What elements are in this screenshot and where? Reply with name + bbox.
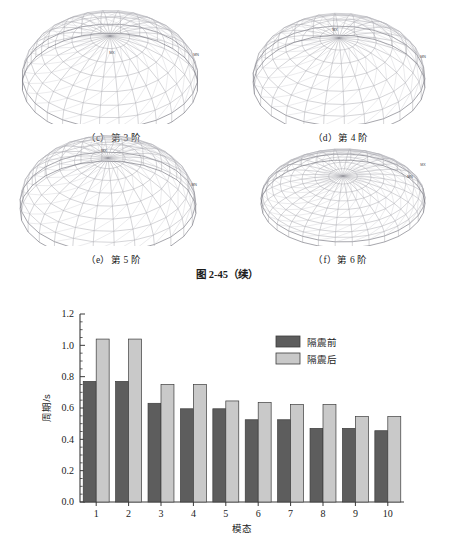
mesh-segment (113, 205, 127, 219)
mesh-segment (304, 17, 316, 19)
mesh-segment (114, 240, 134, 246)
mesh-segment (366, 151, 383, 156)
mesh-segment (343, 176, 410, 224)
y-tick-label: 0.8 (62, 371, 75, 382)
mesh-segment (39, 232, 55, 233)
mesh-segment (356, 173, 370, 174)
mesh-segment (381, 27, 400, 36)
mesh-segment (292, 220, 308, 221)
mesh-segment (338, 162, 339, 169)
mesh-segment (128, 59, 130, 75)
x-tick-label: 1 (94, 508, 99, 519)
mesh-segment (133, 213, 147, 229)
mesh-segment (385, 226, 398, 236)
mesh-segment (146, 68, 148, 86)
mesh-segment (263, 174, 343, 189)
mesh-segment (93, 242, 114, 246)
mesh-segment (54, 85, 73, 91)
mesh-segment (154, 228, 169, 245)
mesh-segment (45, 211, 64, 214)
mesh-segment (358, 40, 375, 49)
mesh-segment (83, 193, 100, 203)
mesh-segment (273, 95, 291, 98)
mesh-segment (376, 43, 390, 55)
x-tick-label: 10 (383, 508, 393, 519)
mesh-segment (34, 204, 51, 205)
mesh-segment (308, 216, 324, 220)
mesh-segment (287, 101, 307, 106)
mesh-segment (271, 106, 287, 107)
mesh-segment (172, 94, 183, 113)
mesh-segment (275, 41, 286, 45)
legend-label: 隔震前 (307, 337, 337, 348)
mesh-segment (261, 97, 273, 98)
mesh-segment (116, 61, 123, 77)
mesh-segment (141, 185, 143, 201)
mesh-segment (151, 207, 160, 225)
mesh-segment (315, 162, 371, 192)
x-tick-label: 9 (353, 508, 358, 519)
mesh-segment (369, 232, 384, 240)
mesh-segment (316, 49, 331, 59)
bar-before-isolation (278, 420, 291, 502)
mesh-segment (360, 198, 364, 208)
mesh-segment (39, 158, 108, 233)
mesh-segment (280, 184, 291, 187)
mesh-segment (108, 158, 154, 245)
mesh-segment (329, 63, 341, 77)
mesh-segment (189, 187, 190, 207)
bar-after-isolation (226, 401, 239, 502)
mesh-segment (375, 48, 385, 62)
mesh-segment (159, 23, 177, 34)
mesh-segment (76, 156, 91, 159)
mesh-segment (80, 117, 99, 124)
mesh-segment (87, 77, 104, 89)
mesh-segment (64, 103, 83, 110)
mesh-segment (155, 173, 162, 188)
mesh-segment (120, 166, 125, 178)
mesh-segment (107, 142, 114, 149)
y-tick-label: 0.0 (62, 496, 75, 507)
mesh-segment (50, 31, 64, 32)
mesh-segment (411, 73, 413, 93)
mesh-segment (96, 206, 113, 218)
mesh-segment (112, 192, 123, 206)
mesh-segment (110, 36, 156, 120)
mesh-segment (128, 41, 142, 52)
mesh-segment (291, 157, 302, 160)
mesh-segment (94, 219, 113, 231)
mesh-max-marker: MX (332, 28, 338, 32)
mesh-segment (305, 223, 322, 226)
bar-before-isolation (310, 428, 323, 502)
mesh-segment (155, 92, 166, 110)
mesh-segment (100, 105, 119, 117)
mesh-segment (353, 47, 359, 61)
mesh-segment (335, 237, 352, 242)
mesh-segment (278, 66, 297, 69)
mesh-segment (304, 116, 324, 122)
mesh-segment (104, 18, 106, 27)
mesh-segment (47, 110, 64, 113)
bar-before-isolation (245, 420, 258, 502)
legend-swatch (276, 353, 300, 364)
mesh-segment (184, 208, 191, 228)
bar-after-isolation (96, 339, 109, 502)
mesh-segment (110, 168, 113, 180)
mesh-segment (305, 104, 325, 112)
mesh-segment (59, 216, 79, 222)
mesh-segment (286, 209, 301, 210)
x-tick-label: 2 (126, 508, 131, 519)
mesh-segment (118, 90, 132, 106)
mesh-segment (346, 184, 347, 193)
mesh-segment (370, 195, 371, 205)
mesh-segment (134, 149, 152, 153)
bar-before-isolation (180, 409, 193, 502)
mesh-segment (331, 192, 341, 200)
mesh-segment (261, 160, 425, 246)
mesh-segment (344, 102, 362, 116)
mesh-segment (281, 177, 290, 181)
mesh-segment (398, 214, 406, 226)
mesh-segment (384, 221, 395, 232)
bar-after-isolation (291, 405, 304, 502)
mesh-segment (335, 232, 351, 238)
